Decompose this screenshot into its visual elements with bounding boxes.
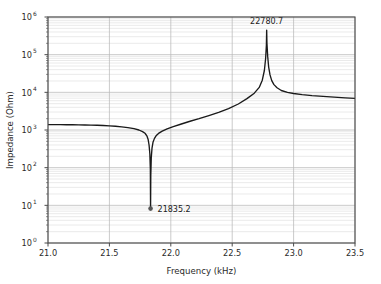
y-tick-label-exponent: 0 xyxy=(33,237,37,243)
chart-figure: 21835.222780.7 21.021.522.022.523.023.5 … xyxy=(0,0,381,284)
y-tick-label-exponent: 4 xyxy=(33,86,37,92)
y-tick-label-exponent: 5 xyxy=(33,48,37,54)
y-tick-label-exponent: 3 xyxy=(33,124,37,130)
y-tick-label: 10 xyxy=(22,88,32,98)
y-tick-label: 10 xyxy=(22,238,32,248)
y-tick-label-exponent: 2 xyxy=(33,161,37,167)
x-tick-label: 23.0 xyxy=(284,248,302,258)
x-tick-label: 21.5 xyxy=(100,248,118,258)
x-tick-label: 23.5 xyxy=(346,248,364,258)
x-tick-label: 21.0 xyxy=(39,248,57,258)
x-tick-label: 22.0 xyxy=(162,248,180,258)
y-tick-label-exponent: 1 xyxy=(33,199,37,205)
y-tick-label: 10 xyxy=(22,201,32,211)
y-tick-label: 10 xyxy=(22,125,32,135)
y-tick-label: 10 xyxy=(22,12,32,22)
x-tick-label: 22.5 xyxy=(223,248,241,258)
impedance-frequency-plot: 21835.222780.7 21.021.522.022.523.023.5 … xyxy=(0,0,381,284)
x-axis-title: Frequency (kHz) xyxy=(167,266,237,276)
y-tick-label: 10 xyxy=(22,50,32,60)
annotation-marker xyxy=(148,206,153,211)
annotation-label-resonance-minimum: 21835.2 xyxy=(158,205,191,214)
y-tick-label: 10 xyxy=(22,163,32,173)
y-axis-title: Impedance (Ohm) xyxy=(5,91,15,169)
y-tick-label-exponent: 6 xyxy=(33,11,37,17)
annotation-label-antiresonance-maximum: 22780.7 xyxy=(250,17,283,26)
